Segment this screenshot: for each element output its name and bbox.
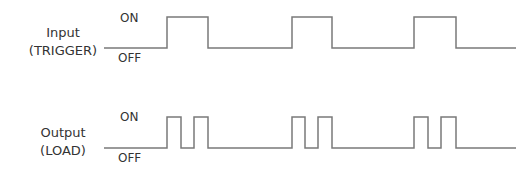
timing-waveforms [0,0,527,171]
output-waveform [104,117,516,148]
input-waveform [104,17,516,48]
